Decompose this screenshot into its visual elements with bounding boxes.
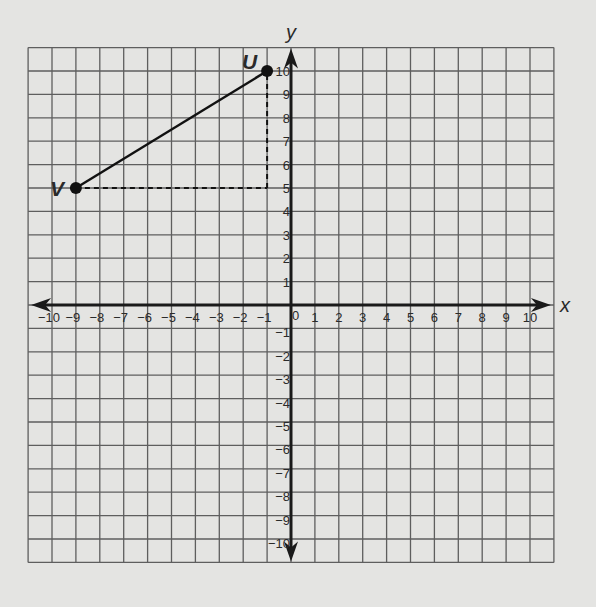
x-tick-label: −10 [38, 310, 60, 325]
x-tick-label: −2 [233, 310, 248, 325]
y-axis-label: y [284, 21, 297, 43]
y-tick-label: 9 [283, 87, 290, 102]
x-tick-label: −8 [89, 310, 104, 325]
y-tick-label: 5 [283, 181, 290, 196]
y-tick-label: −10 [268, 536, 290, 551]
y-tick-label: −3 [275, 372, 290, 387]
x-tick-label: 7 [455, 310, 462, 325]
y-tick-label: −1 [275, 325, 290, 340]
y-tick-label: −2 [275, 349, 290, 364]
x-tick-label: 2 [335, 310, 342, 325]
x-tick-label: 4 [383, 310, 390, 325]
x-tick-label: 10 [523, 310, 537, 325]
tick-labels: −10−9−8−7−6−5−4−3−2−10123456789101098765… [38, 64, 537, 551]
point-v-label: V [50, 177, 66, 200]
x-tick-label: −3 [209, 310, 224, 325]
x-tick-label: 9 [502, 310, 509, 325]
y-tick-label: 8 [283, 111, 290, 126]
y-tick-label: −8 [275, 489, 290, 504]
x-tick-label: −6 [137, 310, 152, 325]
x-tick-label: 0 [292, 308, 299, 323]
y-tick-label: 6 [283, 158, 290, 173]
x-tick-label: −5 [161, 310, 176, 325]
coordinate-plane-figure: −10−9−8−7−6−5−4−3−2−10123456789101098765… [0, 0, 596, 607]
coordinate-plane: −10−9−8−7−6−5−4−3−2−10123456789101098765… [0, 0, 596, 607]
y-tick-label: 3 [283, 228, 290, 243]
y-tick-label: 7 [283, 134, 290, 149]
x-tick-label: 5 [407, 310, 414, 325]
y-tick-label: 4 [283, 204, 290, 219]
x-tick-label: 3 [359, 310, 366, 325]
x-tick-label: −4 [185, 310, 200, 325]
y-tick-label: 1 [283, 275, 290, 290]
y-tick-label: −6 [275, 442, 290, 457]
x-tick-label: 1 [311, 310, 318, 325]
y-tick-label: −4 [275, 396, 290, 411]
x-tick-label: 8 [479, 310, 486, 325]
axes [31, 49, 551, 562]
point-v-dot [70, 182, 82, 194]
y-tick-label: 2 [283, 251, 290, 266]
point-u-label: U [242, 50, 258, 73]
x-tick-label: 6 [431, 310, 438, 325]
point-u-dot [261, 65, 273, 77]
x-tick-label: −9 [65, 310, 80, 325]
y-tick-label: −9 [275, 513, 290, 528]
y-tick-label: −5 [275, 419, 290, 434]
x-tick-label: −7 [113, 310, 128, 325]
points: UV [50, 50, 273, 200]
y-tick-label: 10 [276, 64, 290, 79]
x-tick-label: −1 [257, 310, 272, 325]
x-axis-label: x [559, 294, 571, 316]
y-tick-label: −7 [275, 466, 290, 481]
